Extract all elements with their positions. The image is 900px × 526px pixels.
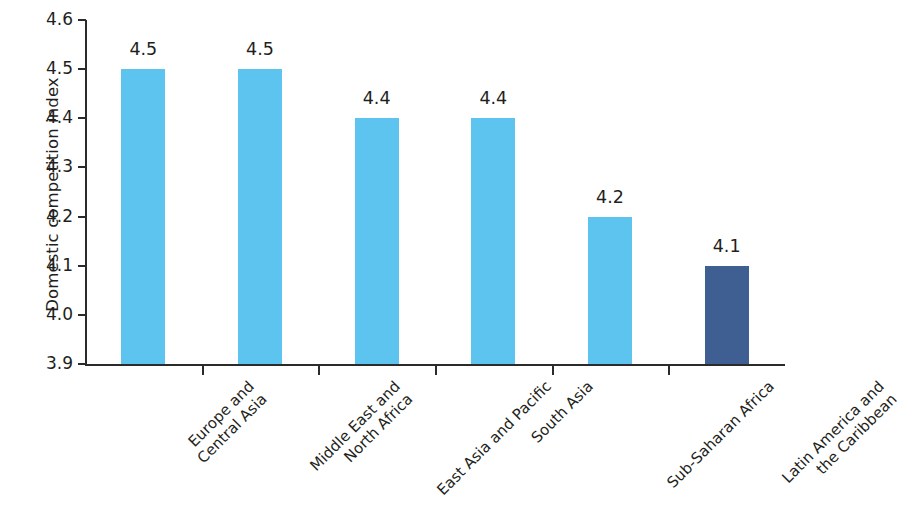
bar-value-label: 4.2	[570, 189, 650, 207]
y-axis-tick	[78, 166, 86, 168]
y-axis-tick	[78, 19, 86, 21]
bar	[121, 69, 165, 364]
y-axis-tick-label: 4.5	[13, 60, 73, 77]
x-axis-category-label: Latin America andthe Caribbean	[779, 378, 900, 500]
y-axis-tick	[78, 68, 86, 70]
y-axis-tick-label: 4.4	[13, 109, 73, 126]
y-axis-tick	[78, 265, 86, 267]
bar-value-label: 4.5	[103, 41, 183, 59]
x-axis-tick	[318, 366, 320, 375]
x-axis-category-label: Sub-Saharan Africa	[664, 378, 778, 492]
y-axis-tick	[78, 314, 86, 316]
y-axis-tick-label: 4.1	[13, 257, 73, 274]
bar	[238, 69, 282, 364]
bar	[471, 118, 515, 364]
bar-value-label: 4.5	[220, 41, 300, 59]
x-axis-tick	[435, 366, 437, 375]
y-axis-tick-label: 4.2	[13, 208, 73, 225]
bar-value-label: 4.1	[687, 238, 767, 256]
bar	[705, 266, 749, 364]
y-axis-tick	[78, 216, 86, 218]
bar-value-label: 4.4	[337, 90, 417, 108]
bar	[588, 217, 632, 364]
y-axis-tick-label: 4.0	[13, 306, 73, 323]
y-axis-tick-label: 4.6	[13, 11, 73, 28]
x-axis-tick	[202, 366, 204, 375]
y-axis-tick-label: 4.3	[13, 158, 73, 175]
y-axis-tick	[78, 363, 86, 365]
bar-value-label: 4.4	[453, 90, 533, 108]
y-axis-tick	[78, 117, 86, 119]
x-axis-category-label: Europe andCentral Asia	[182, 378, 271, 467]
x-axis-category-label-line: Latin America and	[779, 378, 888, 487]
x-axis-tick	[552, 366, 554, 375]
x-axis-tick	[668, 366, 670, 375]
x-axis-category-label: Middle East andNorth Africa	[307, 378, 417, 488]
y-axis-tick-label: 3.9	[13, 355, 73, 372]
x-axis-category-label-line: Sub-Saharan Africa	[664, 378, 778, 492]
bar	[355, 118, 399, 364]
